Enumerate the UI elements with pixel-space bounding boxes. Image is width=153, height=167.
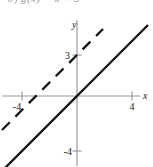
x-axis-label: x (142, 90, 148, 101)
x-tick-label-pos4: 4 (130, 101, 135, 112)
dashed-line-g-of-x (2, 29, 103, 130)
x-tick-label-neg4: -4 (13, 101, 21, 112)
y-axis-label: y (71, 19, 77, 30)
y-tick-label-pos3: 3 (65, 50, 70, 61)
coordinate-plane-plot: y x -4 4 3 -4 (0, 0, 153, 167)
graph-figure: b) g(x) = x + 3 y x -4 4 3 -4 (0, 0, 153, 167)
y-tick-label-neg4: -4 (64, 146, 72, 157)
